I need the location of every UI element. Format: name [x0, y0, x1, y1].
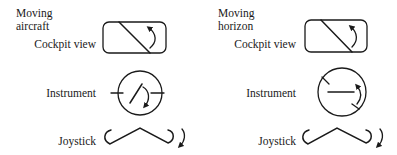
rotate-arrow-icon	[378, 129, 382, 146]
horizon-line	[119, 22, 150, 53]
rotate-arrow-icon	[357, 86, 361, 104]
joystick-shape	[303, 128, 371, 144]
instrument-dial-icon	[318, 68, 366, 116]
joystick-icon	[303, 128, 383, 146]
rotate-arrow-icon	[149, 28, 155, 48]
joystick-icon	[105, 128, 185, 146]
dial-needle	[130, 84, 142, 103]
cockpit-view-icon	[103, 22, 166, 53]
diagram-canvas	[0, 0, 397, 155]
rotate-arrow-icon	[180, 129, 184, 146]
joystick-shape	[105, 128, 173, 144]
dial-tick-upper-left	[322, 77, 329, 84]
rotate-arrow-icon	[351, 27, 356, 47]
horizon-line	[321, 20, 352, 52]
instrument-dial-icon	[111, 71, 164, 115]
dial-tick-lower-right	[352, 104, 359, 109]
rotate-arrow-icon	[143, 87, 149, 106]
cockpit-view-icon	[305, 20, 367, 52]
